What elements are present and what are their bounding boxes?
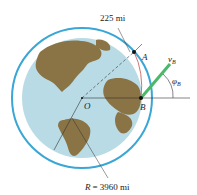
point-a-dot bbox=[132, 50, 136, 54]
point-b-dot bbox=[139, 96, 143, 100]
angle-label: φB bbox=[172, 76, 181, 87]
point-a-label: A bbox=[141, 52, 148, 62]
center-o-label: O bbox=[84, 101, 91, 111]
altitude-label: 225 mi bbox=[100, 13, 126, 23]
satellite-orbit-diagram: 225 mi A B O vB φB R= 3960 mi bbox=[0, 0, 197, 195]
point-b-label: B bbox=[140, 102, 146, 112]
center-o-dot bbox=[81, 97, 83, 99]
radius-label: R= 3960 mi bbox=[84, 182, 130, 192]
velocity-label: vB bbox=[168, 54, 176, 65]
